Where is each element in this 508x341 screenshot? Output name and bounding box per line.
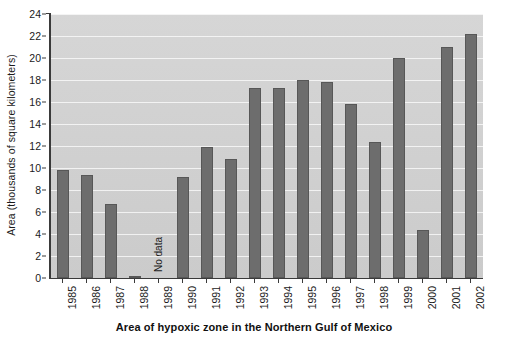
y-tick-mark (42, 80, 46, 81)
y-axis-tick-labels: 024681012141618202224 (22, 14, 46, 278)
bar (105, 204, 117, 278)
y-tick-label: 22 (29, 30, 41, 42)
x-tick-mark (302, 279, 303, 283)
bars-layer: No data (51, 14, 483, 278)
y-tick-mark (42, 124, 46, 125)
x-tick-label: 1998 (378, 286, 390, 309)
x-tick-mark (62, 279, 63, 283)
x-tick-mark (254, 279, 255, 283)
bar (297, 80, 309, 278)
x-tick-label: 1996 (330, 286, 342, 309)
chart-title: Area of hypoxic zone in the Northern Gul… (0, 321, 508, 333)
y-axis-title-text: Area (thousands of square kilometers) (5, 54, 17, 236)
bar (441, 47, 453, 278)
bar (201, 147, 213, 278)
y-axis-line (49, 13, 50, 279)
y-tick-label: 12 (29, 140, 41, 152)
x-tick-label: 2002 (474, 286, 486, 309)
x-tick-mark (374, 279, 375, 283)
y-tick-mark (42, 168, 46, 169)
x-tick-label: 2000 (426, 286, 438, 309)
bar (369, 142, 381, 278)
y-tick-label: 18 (29, 74, 41, 86)
y-tick-label: 14 (29, 118, 41, 130)
x-tick-mark (86, 279, 87, 283)
x-tick-label: 2001 (450, 286, 462, 309)
x-tick-label: 1987 (114, 286, 126, 309)
y-tick-label: 24 (29, 8, 41, 20)
x-tick-mark (134, 279, 135, 283)
no-data-annotation: No data (153, 237, 164, 272)
y-tick-mark (42, 102, 46, 103)
y-tick-mark (42, 146, 46, 147)
bar (177, 177, 189, 278)
y-tick-mark (42, 58, 46, 59)
x-tick-label: 1992 (234, 286, 246, 309)
bar (417, 230, 429, 278)
x-tick-label: 1991 (210, 286, 222, 309)
x-tick-mark (206, 279, 207, 283)
x-tick-mark (110, 279, 111, 283)
y-tick-mark (42, 256, 46, 257)
y-axis-title: Area (thousands of square kilometers) (0, 0, 22, 290)
bar (273, 88, 285, 278)
y-tick-label: 16 (29, 96, 41, 108)
y-tick-label: 20 (29, 52, 41, 64)
y-tick-label: 2 (35, 250, 41, 262)
x-tick-label: 1994 (282, 286, 294, 309)
bar (465, 34, 477, 278)
y-tick-mark (42, 234, 46, 235)
x-tick-label: 1990 (186, 286, 198, 309)
x-tick-label: 1985 (66, 286, 78, 309)
y-axis-top-tick (46, 13, 51, 14)
x-tick-label: 1986 (90, 286, 102, 309)
x-tick-mark (326, 279, 327, 283)
x-tick-mark (422, 279, 423, 283)
y-tick-label: 10 (29, 162, 41, 174)
x-tick-mark (470, 279, 471, 283)
bar (225, 159, 237, 278)
y-tick-label: 8 (35, 184, 41, 196)
x-tick-mark (182, 279, 183, 283)
y-tick-mark (42, 36, 46, 37)
bar (81, 175, 93, 278)
x-tick-label: 1999 (402, 286, 414, 309)
y-tick-label: 6 (35, 206, 41, 218)
x-tick-mark (446, 279, 447, 283)
x-tick-mark (278, 279, 279, 283)
y-tick-label: 4 (35, 228, 41, 240)
y-tick-mark (42, 278, 46, 279)
x-tick-label: 1997 (354, 286, 366, 309)
x-tick-label: 1995 (306, 286, 318, 309)
x-tick-mark (230, 279, 231, 283)
x-tick-label: 1993 (258, 286, 270, 309)
y-tick-label: 0 (35, 272, 41, 284)
bar (321, 82, 333, 278)
x-tick-label: 1988 (138, 286, 150, 309)
x-tick-mark (158, 279, 159, 283)
bar (249, 88, 261, 278)
hypoxic-zone-bar-chart: Area (thousands of square kilometers) 02… (0, 0, 508, 341)
plot-area: No data (50, 14, 483, 278)
x-tick-mark (350, 279, 351, 283)
bar (393, 58, 405, 278)
x-tick-mark (398, 279, 399, 283)
y-tick-mark (42, 190, 46, 191)
bar (345, 104, 357, 278)
x-tick-label: 1989 (162, 286, 174, 309)
bar (57, 170, 69, 278)
y-tick-mark (42, 212, 46, 213)
